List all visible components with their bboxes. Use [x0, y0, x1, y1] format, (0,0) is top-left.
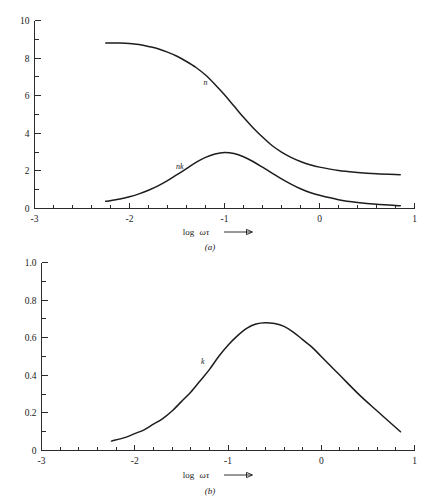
x-tick-label: 0 [317, 214, 322, 224]
y-tick-label: 1.0 [25, 258, 37, 268]
curve-label-nk: nk [176, 162, 184, 171]
x-tick-label: -1 [221, 214, 229, 224]
curve-nk [106, 152, 401, 205]
x-tick-label: -2 [126, 214, 134, 224]
y-tick-label: 0.2 [25, 408, 37, 418]
x-tick-label: -1 [224, 456, 232, 466]
y-tick-label: 10 [20, 16, 30, 26]
panel-b-curve-labels: k [201, 357, 205, 366]
y-tick-label: 2 [25, 166, 30, 176]
x-tick-label: 1 [412, 456, 417, 466]
y-tick-label: 0.4 [25, 371, 37, 381]
y-tick-label: 8 [25, 54, 30, 64]
panel-a-curve-labels: n nk [176, 78, 207, 171]
panel-a-y-ticks: 0246810 [20, 16, 41, 214]
y-tick-label: 0 [32, 446, 37, 456]
panel-b-axes [42, 263, 415, 451]
y-tick-label: 0.6 [25, 333, 37, 343]
x-axis-title-b: log ωτ [183, 470, 210, 480]
panel-a-plot: 0246810 -3-2-101 n nk log ωτ (a) [0, 0, 429, 258]
panel-b-x-title: log ωτ [183, 470, 253, 480]
dispersion-figure: 0246810 -3-2-101 n nk log ωτ (a) [0, 0, 429, 501]
panel-b-y-ticks: 00.20.40.60.81.0 [25, 258, 48, 456]
curve-k [111, 323, 400, 441]
panel-a-curves [106, 43, 401, 206]
panel-caption-b: (b) [205, 486, 216, 496]
x-tick-label: 1 [412, 214, 417, 224]
panel-a-axes [35, 21, 415, 209]
curve-label-n: n [204, 78, 208, 87]
panel-b-curves [111, 323, 400, 441]
x-tick-label: -3 [31, 214, 39, 224]
x-tick-label: 0 [319, 456, 324, 466]
panel-a-x-ticks: -3-2-101 [31, 203, 418, 224]
x-axis-arrow-a [224, 229, 253, 234]
x-axis-title-a: log ωτ [183, 227, 210, 237]
curve-n [106, 43, 401, 175]
curve-label-k: k [201, 357, 205, 366]
x-tick-label: -2 [131, 456, 139, 466]
panel-a-x-title: log ωτ [183, 227, 253, 237]
panel-b-plot: 00.20.40.60.81.0 -3-2-101 k log ωτ (b) [0, 252, 429, 501]
panel-b-x-ticks: -3-2-101 [38, 445, 418, 466]
panel-b: 00.20.40.60.81.0 -3-2-101 k log ωτ (b) [0, 252, 429, 501]
y-tick-label: 0.8 [25, 296, 37, 306]
panel-a: 0246810 -3-2-101 n nk log ωτ (a) [0, 0, 429, 258]
y-tick-label: 6 [25, 91, 30, 101]
y-tick-label: 4 [25, 129, 30, 139]
y-tick-label: 0 [25, 204, 30, 214]
panel-caption-a: (a) [205, 242, 216, 252]
x-tick-label: -3 [38, 456, 46, 466]
x-axis-arrow-b [224, 472, 253, 477]
